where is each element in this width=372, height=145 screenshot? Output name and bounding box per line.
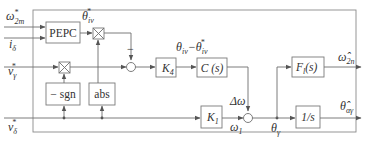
junction-dot	[101, 117, 104, 120]
theta-alpha-gamma-hat-label: θ̂αγ	[340, 99, 354, 115]
integrator-label: 1/s	[301, 111, 315, 123]
abs-label: abs	[94, 88, 110, 100]
sum-junction-2	[244, 114, 253, 123]
omega-2n-hat-label: ω̂2n	[338, 50, 354, 66]
delta-omega-label: Δω	[229, 94, 246, 108]
input-v-delta-star-label: vδ*	[8, 118, 17, 136]
neg-sgn-label: − sgn	[50, 88, 76, 101]
multiplier-2	[59, 62, 70, 73]
theta-error-label: θiv−θiv*	[176, 38, 208, 56]
c-s-label: C (s)	[201, 62, 224, 75]
multiplier-1	[93, 28, 104, 39]
input-v-gamma-star-label: vγ*	[8, 62, 17, 80]
theta-gamma-to-fl	[277, 67, 291, 118]
input-i-delta-label: iδ	[9, 37, 16, 53]
minus-sign: −	[127, 42, 134, 56]
omega-1-label: ω1	[230, 120, 242, 136]
input-omega-2m-star-label: ω2m*	[6, 8, 24, 26]
junction-dot	[63, 117, 66, 120]
sum-junction-1	[127, 63, 136, 72]
theta-gamma-label: θγ	[271, 121, 281, 137]
pepc-label: PEPC	[49, 27, 77, 39]
block-diagram: ω2m* iδ vγ* vδ* PEPC θiv* − − sgn abs K4…	[0, 0, 372, 145]
